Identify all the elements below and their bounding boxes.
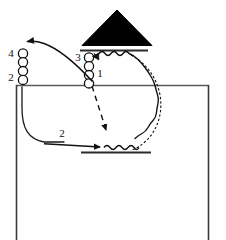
- long-curved-arrow: [28, 41, 93, 81]
- diagram-svg: 4 2 3 1 2: [0, 0, 226, 240]
- label-one: 1: [97, 67, 103, 79]
- dashed-arrow: [92, 86, 106, 130]
- label-four: 4: [8, 47, 14, 59]
- right-chain-circle: [84, 53, 93, 62]
- right-chain-circle: [84, 62, 93, 71]
- filled-triangle: [82, 10, 152, 46]
- large-wavy-arc: [129, 54, 170, 149]
- label-three: 3: [75, 51, 81, 63]
- diagram-canvas: 4 2 3 1 2: [0, 0, 226, 240]
- straight-arrow: [44, 144, 100, 147]
- left-chain-circle: [18, 58, 27, 67]
- inner-curve-path: [22, 87, 64, 142]
- left-chain-circle: [18, 75, 27, 84]
- left-chain-circle: [18, 67, 27, 76]
- label-two-left: 2: [8, 71, 14, 83]
- left-chain-circle: [18, 49, 27, 58]
- top-wavy-segment: [93, 52, 130, 61]
- right-circle-chain: [84, 53, 93, 88]
- outer-open-box: [16, 85, 209, 240]
- label-two-bottom: 2: [59, 127, 65, 139]
- left-circle-chain: [18, 49, 27, 85]
